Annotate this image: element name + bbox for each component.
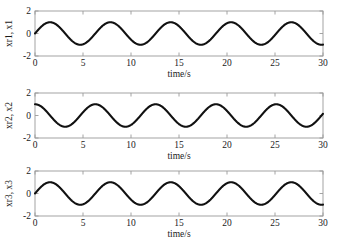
y-axis-label: xr1, x1: [4, 20, 14, 47]
subplot-panel-3: 051015202530-202time/sxr3, x3: [0, 160, 338, 243]
x-tick-label: 10: [126, 140, 136, 150]
x-tick-label: 10: [126, 58, 136, 68]
plot-area-3: 051015202530-202time/sxr3, x3: [0, 160, 338, 243]
y-tick-label: 0: [26, 111, 31, 121]
x-tick-label: 20: [222, 140, 232, 150]
x-tick-label: 30: [318, 218, 328, 228]
x-tick-label: 15: [174, 140, 184, 150]
y-tick-label: 0: [26, 189, 31, 199]
data-curve: [35, 104, 323, 127]
axis-frame: [35, 171, 323, 216]
data-curve: [35, 22, 323, 45]
x-tick-label: 5: [81, 218, 86, 228]
x-tick-label: 5: [81, 140, 86, 150]
x-axis-label: time/s: [167, 229, 191, 239]
plot-area-1: 051015202530-202time/sxr1, x1: [0, 0, 338, 83]
x-tick-label: 30: [318, 140, 328, 150]
x-tick-label: 25: [270, 218, 280, 228]
x-tick-label: 0: [33, 140, 38, 150]
y-tick-label: 0: [26, 29, 31, 39]
y-tick-label: 2: [26, 88, 31, 98]
x-tick-label: 30: [318, 58, 328, 68]
y-tick-label: -2: [23, 211, 31, 221]
x-tick-label: 15: [174, 218, 184, 228]
y-tick-label: -2: [23, 51, 31, 61]
y-tick-label: 2: [26, 6, 31, 16]
x-tick-label: 5: [81, 58, 86, 68]
data-curve: [35, 182, 323, 205]
axis-frame: [35, 11, 323, 56]
x-tick-label: 0: [33, 218, 38, 228]
x-tick-label: 20: [222, 218, 232, 228]
subplot-panel-1: 051015202530-202time/sxr1, x1: [0, 0, 338, 83]
y-axis-label: xr3, x3: [4, 180, 14, 207]
axis-frame: [35, 93, 323, 138]
y-axis-label: xr2, x2: [4, 102, 14, 129]
y-tick-label: 2: [26, 166, 31, 176]
x-tick-label: 0: [33, 58, 38, 68]
x-axis-label: time/s: [167, 69, 191, 79]
subplot-panel-2: 051015202530-202time/sxr2, x2: [0, 82, 338, 165]
x-tick-label: 25: [270, 58, 280, 68]
plot-area-2: 051015202530-202time/sxr2, x2: [0, 82, 338, 165]
x-tick-label: 25: [270, 140, 280, 150]
x-tick-label: 10: [126, 218, 136, 228]
x-tick-label: 15: [174, 58, 184, 68]
figure-canvas: 051015202530-202time/sxr1, x1 0510152025…: [0, 0, 338, 249]
x-tick-label: 20: [222, 58, 232, 68]
y-tick-label: -2: [23, 133, 31, 143]
